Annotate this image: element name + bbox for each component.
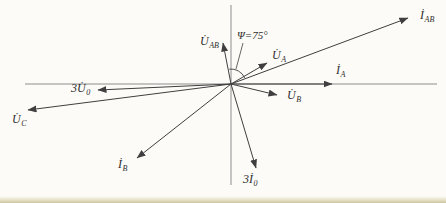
label-U_B-subscript: B	[296, 95, 301, 104]
scanned-phasor-diagram-page: U̇ABU̇AİABİAU̇B3U̇0U̇CİB3İ0Ψ=75°	[0, 0, 446, 203]
label-U_C-symbol: U̇	[12, 112, 21, 126]
label-3U_0-symbol: 3U̇	[71, 81, 86, 95]
label-U_AB: U̇AB	[200, 35, 218, 49]
label-I_A-symbol: İ	[336, 63, 340, 77]
label-I_A: İA	[336, 64, 345, 78]
psi-angle-label: Ψ=75°	[237, 29, 268, 41]
label-3I_0-subscript: 0	[254, 179, 258, 188]
label-U_B-symbol: U̇	[287, 88, 296, 102]
label-U_A: U̇A	[272, 49, 286, 63]
label-U_AB-symbol: U̇	[200, 34, 209, 48]
label-I_AB-symbol: İ	[420, 8, 424, 22]
label-3I_0-symbol: 3İ	[243, 172, 253, 186]
label-I_B: İB	[118, 158, 127, 172]
label-U_A-symbol: U̇	[272, 48, 281, 62]
label-U_C: U̇C	[12, 113, 26, 127]
label-3I_0: 3İ0	[243, 173, 257, 187]
label-I_AB-subscript: AB	[425, 15, 435, 24]
label-3U_0-subscript: 0	[86, 88, 90, 97]
label-U_B: U̇B	[287, 89, 301, 103]
label-3U_0: 3U̇0	[71, 82, 90, 96]
label-U_AB-subscript: AB	[209, 41, 219, 50]
label-U_C-subscript: C	[21, 119, 26, 128]
label-I_A-subscript: A	[341, 70, 346, 79]
label-I_B-symbol: İ	[118, 157, 122, 171]
label-U_A-subscript: A	[281, 55, 286, 64]
vector-labels-layer: U̇ABU̇AİABİAU̇B3U̇0U̇CİB3İ0Ψ=75°	[0, 0, 446, 203]
label-I_AB: İAB	[420, 9, 434, 23]
label-I_B-subscript: B	[123, 164, 128, 173]
